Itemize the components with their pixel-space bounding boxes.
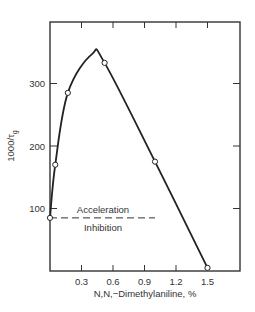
annotation-inhibition: Inhibition bbox=[84, 222, 122, 233]
annotation-acceleration: Acceleration bbox=[77, 204, 129, 215]
y-tick-label: 200 bbox=[29, 141, 45, 152]
data-point bbox=[152, 159, 157, 164]
x-tick-label: 0.9 bbox=[138, 276, 151, 287]
data-point bbox=[65, 90, 70, 95]
data-point bbox=[205, 265, 210, 270]
axis-ticks: 0.30.60.91.21.5100200300 bbox=[29, 22, 240, 287]
y-tick-label: 300 bbox=[29, 78, 45, 89]
data-curve bbox=[50, 49, 208, 268]
plot-frame bbox=[50, 22, 240, 271]
data-points bbox=[47, 60, 210, 270]
x-tick-label: 1.2 bbox=[169, 276, 182, 287]
x-tick-label: 0.3 bbox=[75, 276, 88, 287]
x-axis-label: N,N,−Dimethylaniline, % bbox=[94, 288, 197, 299]
data-point bbox=[102, 60, 107, 65]
chart: 0.30.60.91.21.5100200300 Acceleration In… bbox=[0, 0, 255, 312]
data-point bbox=[47, 215, 52, 220]
data-point bbox=[53, 162, 58, 167]
y-axis-label: 1000/τg bbox=[5, 130, 19, 162]
x-tick-label: 1.5 bbox=[201, 276, 214, 287]
y-tick-label: 100 bbox=[29, 203, 45, 214]
x-tick-label: 0.6 bbox=[106, 276, 119, 287]
